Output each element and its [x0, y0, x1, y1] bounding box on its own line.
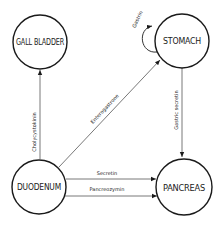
edge-gastrin: Gastrin: [131, 10, 157, 52]
node-pancreas: PANCREAS: [156, 159, 212, 215]
edge-secretin: Secretin: [66, 170, 156, 179]
edge-label-gastric-secretin: Gastric secretin: [173, 90, 179, 129]
edge-label-gastrin: Gastrin: [131, 10, 144, 29]
node-label-pancreas: PANCREAS: [163, 183, 205, 193]
edge-gastric-secretin: Gastric secretin: [173, 68, 182, 157]
node-label-gall-bladder: GALL BLADDER: [16, 37, 65, 47]
edge-enterogastrone: Enterogastrone: [59, 60, 160, 167]
edge-cholecystokinin: Cholycystokinin: [31, 70, 40, 159]
node-label-stomach: STOMACH: [163, 36, 201, 46]
node-duodenum: DUODENUM: [12, 160, 66, 214]
node-stomach: STOMACH: [155, 14, 209, 68]
edge-pancreozymin: Pancreozymin: [64, 186, 157, 196]
node-label-duodenum: DUODENUM: [17, 182, 61, 192]
edge-label-secretin: Secretin: [97, 170, 118, 176]
edge-label-enterogastrone: Enterogastrone: [89, 93, 120, 126]
edge-label-pancreozymin: Pancreozymin: [90, 186, 125, 193]
hormone-diagram: Cholycystokinin Enterogastrone Gastrin G…: [0, 0, 221, 225]
node-gall-bladder: GALL BLADDER: [13, 15, 67, 69]
edge-label-cholecystokinin: Cholycystokinin: [31, 112, 38, 151]
